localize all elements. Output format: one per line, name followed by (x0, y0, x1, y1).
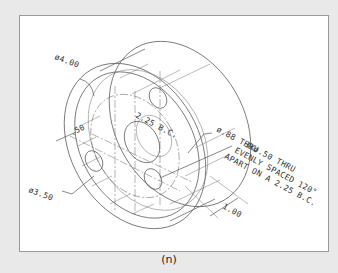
label-bolt-circle: 2.25 B.C. (134, 111, 179, 141)
bolt-hole-top (146, 84, 171, 111)
bolt-hole-bottom (141, 165, 166, 192)
isometric-drawing: ø4.00 ø3.50 .50 2.25 B.C. ø.88 THRU 1.00… (20, 16, 330, 253)
leader-center-hole (188, 133, 212, 153)
centerlines (70, 71, 192, 216)
recess-edge (64, 48, 233, 232)
leader-inner-diameter (62, 176, 94, 194)
front-outer-edge (36, 38, 235, 253)
figure-caption: (n) (0, 253, 338, 266)
label-depth: 1.00 (221, 202, 243, 220)
label-rim-width: .50 (69, 123, 87, 138)
leader-bolt-holes (160, 146, 232, 178)
label-outer-diameter: ø4.00 (53, 52, 80, 69)
depth-extension-2 (210, 176, 248, 204)
label-inner-diameter: ø3.50 (27, 185, 54, 202)
drawing-frame: ø4.00 ø3.50 .50 2.25 B.C. ø.88 THRU 1.00… (19, 15, 329, 252)
